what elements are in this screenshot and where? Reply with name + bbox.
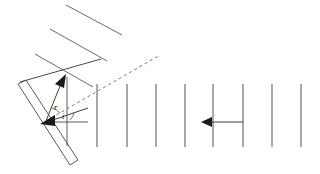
incoming-wavefront-group (97, 84, 301, 147)
mirror-upper-edge-extension (20, 59, 101, 82)
reflected-wavefront-1 (66, 5, 122, 35)
wave-reflection-diagram: r i (0, 0, 320, 174)
propagation-arrow-head (201, 117, 212, 127)
propagation-direction-arrow (201, 117, 243, 127)
reflected-wavefront-2 (50, 29, 107, 61)
diagram-canvas: r i (0, 0, 320, 174)
reflected-wavefront-group (35, 5, 122, 87)
reflected-ray-arrowhead (55, 74, 66, 88)
reflected-ray-shaft (46, 86, 60, 121)
angle-of-reflection-label: r (54, 102, 58, 112)
